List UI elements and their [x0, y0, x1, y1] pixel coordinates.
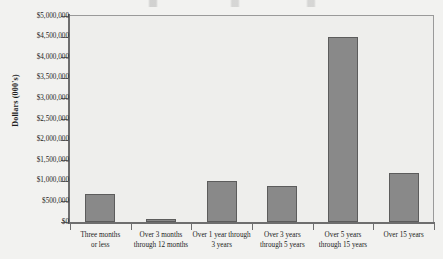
x-axis-category-label: Over 3 monthsthrough 12 months — [127, 231, 196, 250]
bar-slot — [373, 16, 434, 222]
bar — [85, 194, 115, 222]
x-axis-tick — [131, 224, 132, 230]
x-axis-tick — [70, 224, 71, 230]
y-axis-tick-label: $1,000,000 — [11, 176, 69, 184]
y-axis-tick-label: $0 — [11, 218, 69, 226]
bar-chart-figure: Dollars (000's) $5,000,000$4,500,000$4,0… — [0, 0, 443, 259]
x-axis-category-label: Three monthsor less — [66, 231, 135, 250]
x-axis-category-label: Over 15 years — [369, 231, 438, 241]
y-axis-tick-label: $500,000 — [11, 197, 69, 205]
y-axis-tick-label: $2,000,000 — [11, 135, 69, 143]
y-axis-tick-label: $3,500,000 — [11, 73, 69, 81]
bar — [267, 186, 297, 222]
x-axis-tick — [313, 224, 314, 230]
x-axis-tick — [252, 224, 253, 230]
x-axis-tick — [191, 224, 192, 230]
y-axis-tick-label: $1,500,000 — [11, 156, 69, 164]
bar — [146, 219, 176, 222]
y-axis-tick-label: $2,500,000 — [11, 115, 69, 123]
bar-slot — [131, 16, 192, 222]
bar — [328, 37, 358, 222]
x-axis-tick — [373, 224, 374, 230]
bar-slot — [313, 16, 374, 222]
y-axis-tick-label: $3,000,000 — [11, 94, 69, 102]
bar-slot — [252, 16, 313, 222]
bar-slot — [70, 16, 131, 222]
y-axis-tick-label: $4,500,000 — [11, 32, 69, 40]
y-axis-tick-label: $5,000,000 — [11, 12, 69, 20]
x-axis-category-label: Over 3 yearsthrough 5 years — [248, 231, 317, 250]
bar-series — [70, 16, 434, 222]
x-axis-category-label: Over 1 year through3 years — [187, 231, 256, 250]
bar — [207, 181, 237, 222]
scan-artifact — [120, 0, 380, 7]
x-axis-tick — [434, 224, 435, 230]
bar — [389, 173, 419, 222]
bar-slot — [191, 16, 252, 222]
x-axis-category-label: Over 5 yearsthrough 15 years — [309, 231, 378, 250]
y-axis-tick-label: $4,000,000 — [11, 53, 69, 61]
